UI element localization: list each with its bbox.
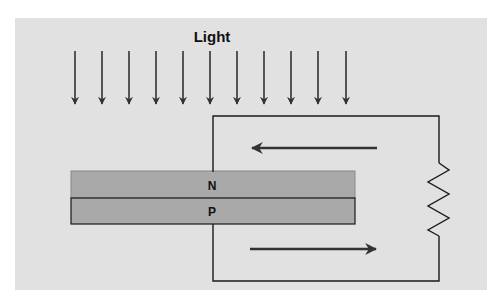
p-layer-label: P (208, 205, 216, 219)
resistor-icon (428, 163, 449, 236)
light-rays (75, 51, 346, 104)
n-layer: N (71, 171, 355, 198)
p-layer: P (71, 198, 355, 224)
n-layer-label: N (208, 179, 217, 193)
photovoltaic-diagram: Light N P (0, 0, 498, 298)
light-label: Light (194, 28, 231, 45)
